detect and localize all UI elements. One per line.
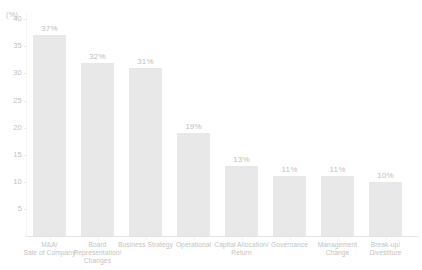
y-axis-tick-label: 15: [0, 151, 22, 159]
x-axis-tick-mark: [242, 236, 243, 239]
bar-value-label: 11%: [265, 165, 314, 174]
bar-value-label: 32%: [73, 52, 122, 61]
y-axis-tick-mark: [24, 209, 27, 210]
bar: [321, 176, 354, 236]
x-axis-line: [26, 236, 418, 237]
bar: [177, 133, 210, 236]
plot-area: 403530252015105 37%32%31%19%13%11%11%10%…: [0, 0, 422, 270]
y-axis-tick-label: 5: [0, 205, 22, 213]
x-axis-tick-mark: [194, 236, 195, 239]
y-axis-tick-label: 20: [0, 124, 22, 132]
bar-value-label: 10%: [361, 171, 410, 180]
bar-value-label: 37%: [25, 24, 74, 33]
x-axis-tick-mark: [146, 236, 147, 239]
y-axis-tick-mark: [24, 46, 27, 47]
bar-value-label: 13%: [217, 155, 266, 164]
x-axis-tick-mark: [50, 236, 51, 239]
y-axis-tick-mark: [24, 128, 27, 129]
y-axis-tick-mark: [24, 19, 27, 20]
bar: [273, 176, 306, 236]
bar-value-label: 19%: [169, 122, 218, 131]
bar-chart: (%) 403530252015105 37%32%31%19%13%11%11…: [0, 0, 422, 270]
y-axis-tick-mark: [24, 155, 27, 156]
y-axis-tick-mark: [24, 73, 27, 74]
x-axis-category-label: Break-up/ Divestiture: [357, 241, 414, 257]
x-axis-tick-mark: [290, 236, 291, 239]
y-axis-tick-mark: [24, 101, 27, 102]
x-axis-tick-mark: [386, 236, 387, 239]
y-axis-tick-label: 35: [0, 42, 22, 50]
bar: [129, 68, 162, 236]
y-axis-tick-mark: [24, 182, 27, 183]
bar-value-label: 11%: [313, 165, 362, 174]
y-axis-tick-label: 30: [0, 69, 22, 77]
bar: [81, 63, 114, 236]
y-axis-tick-label: 25: [0, 97, 22, 105]
bar: [369, 182, 402, 236]
x-axis-tick-mark: [338, 236, 339, 239]
y-axis-tick-label: 40: [0, 15, 22, 23]
x-axis-tick-mark: [98, 236, 99, 239]
y-axis-line: [26, 14, 27, 236]
bar: [33, 35, 66, 236]
bar-value-label: 31%: [121, 57, 170, 66]
bar: [225, 166, 258, 236]
y-axis-tick-label: 10: [0, 178, 22, 186]
